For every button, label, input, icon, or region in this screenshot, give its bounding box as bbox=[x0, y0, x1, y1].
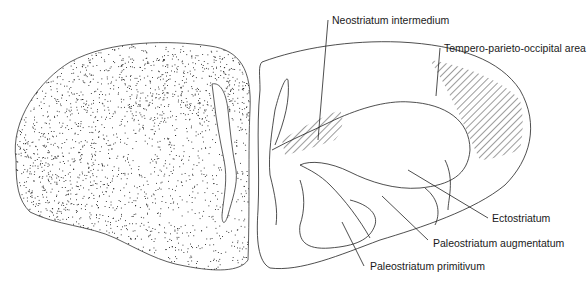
label-ectostriatum: Ectostriatum bbox=[492, 212, 550, 224]
brain-section-diagram: Neostriatum intermedium Tempero-parieto-… bbox=[0, 0, 588, 281]
right-hemisphere-outline bbox=[257, 20, 530, 269]
label-tempero-parieto-occipital-area: Tempero-parieto-occipital area bbox=[444, 42, 586, 54]
label-neostriatum-intermedium: Neostriatum intermedium bbox=[332, 14, 449, 26]
label-paleostriatum-primitivum: Paleostriatum primitivum bbox=[370, 260, 485, 272]
label-paleostriatum-augmentatum: Paleostriatum augmentatum bbox=[433, 237, 564, 249]
left-hemisphere-stippled bbox=[14, 40, 255, 276]
